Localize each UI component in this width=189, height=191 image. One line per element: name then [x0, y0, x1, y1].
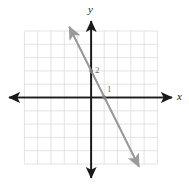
x-axis-label: x	[177, 91, 182, 102]
x-intercept-label: 1	[107, 85, 112, 94]
graph-canvas	[0, 0, 189, 191]
coordinate-plane-figure: y x 2 1	[0, 0, 189, 191]
y-intercept-point	[89, 69, 93, 73]
x-intercept-point	[103, 96, 107, 100]
y-intercept-label: 2	[95, 66, 100, 75]
y-axis-label: y	[88, 4, 93, 15]
